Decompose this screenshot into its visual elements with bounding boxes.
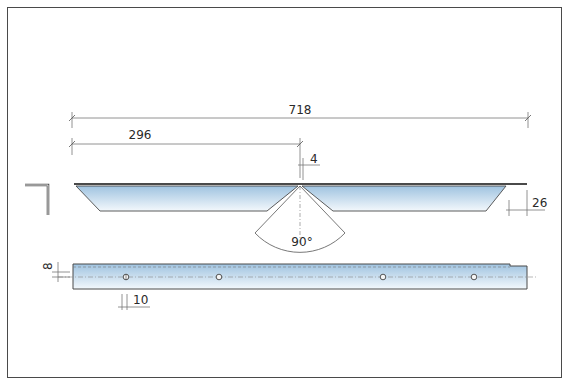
technical-drawing: 718 296 4 90° 26 <box>0 0 570 392</box>
dim-label-296: 296 <box>129 128 152 142</box>
dim-label-718: 718 <box>289 103 312 117</box>
hole-4 <box>471 274 477 280</box>
dim-label-90-degrees: 90° <box>291 235 312 249</box>
top-view-mitered-bar: 90° <box>74 184 527 252</box>
dimension-notch-gap: 4 <box>298 152 320 180</box>
dim-label-26: 26 <box>532 196 547 210</box>
front-view-bar-with-holes <box>58 264 538 289</box>
dimension-end-bevel: 26 <box>506 190 547 216</box>
angle-profile-section <box>25 185 48 215</box>
dimension-hole-spacing: 10 <box>118 293 150 310</box>
dimension-half-length: 296 <box>69 128 303 178</box>
dimension-hole-offset: 8 <box>41 262 70 282</box>
dim-label-8: 8 <box>41 262 55 270</box>
dim-label-4: 4 <box>310 152 318 166</box>
dimension-overall-length: 718 <box>69 103 531 128</box>
hole-3 <box>380 274 386 280</box>
hole-2 <box>216 274 222 280</box>
dim-label-10: 10 <box>133 293 148 307</box>
